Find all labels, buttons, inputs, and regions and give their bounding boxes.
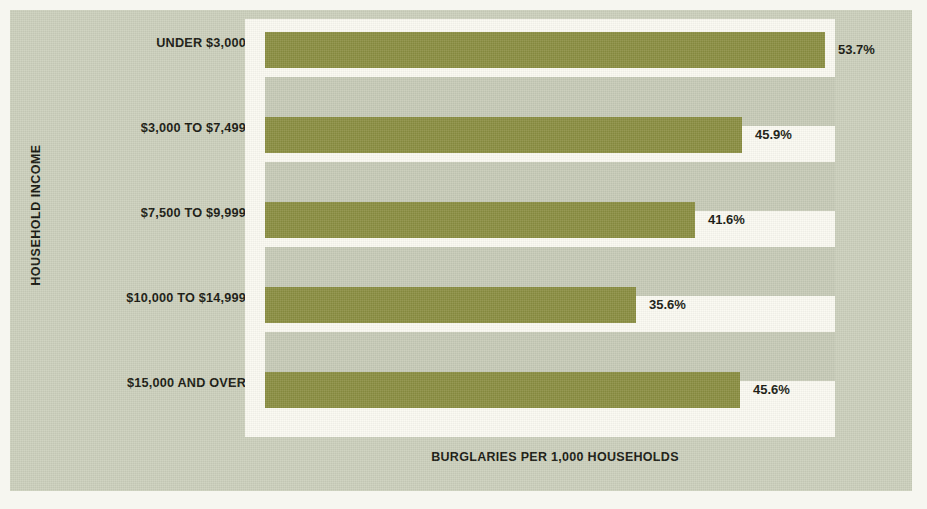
value-label-3: 35.6% [649, 297, 686, 312]
chart-panel: HOUSEHOLD INCOME UNDER $3,000 $3,000 TO … [10, 10, 912, 491]
bar-row-0 [265, 32, 835, 68]
value-label-4: 45.6% [753, 382, 790, 397]
chart-figure: HOUSEHOLD INCOME UNDER $3,000 $3,000 TO … [0, 0, 927, 509]
bar-2[interactable] [265, 202, 695, 238]
plot-area [245, 19, 835, 437]
bar-row-2 [265, 202, 835, 238]
bar-row-3 [265, 287, 835, 323]
category-label-3: $10,000 TO $14,999 [24, 291, 246, 305]
category-label-0: UNDER $3,000 [24, 36, 246, 50]
category-label-2: $7,500 TO $9,999 [24, 206, 246, 220]
value-label-2: 41.6% [708, 212, 745, 227]
bar-1[interactable] [265, 117, 742, 153]
bar-0[interactable] [265, 32, 825, 68]
category-label-1: $3,000 TO $7,499 [24, 121, 246, 135]
value-label-0: 53.7% [838, 42, 875, 57]
category-label-4: $15,000 AND OVER [24, 376, 246, 390]
bar-row-1 [265, 117, 835, 153]
bar-4[interactable] [265, 372, 740, 408]
bar-row-4 [265, 372, 835, 408]
bar-3[interactable] [265, 287, 636, 323]
category-label-group: UNDER $3,000 $3,000 TO $7,499 $7,500 TO … [24, 19, 246, 437]
value-label-1: 45.9% [755, 127, 792, 142]
x-axis-label: BURGLARIES PER 1,000 HOUSEHOLDS [255, 450, 855, 464]
